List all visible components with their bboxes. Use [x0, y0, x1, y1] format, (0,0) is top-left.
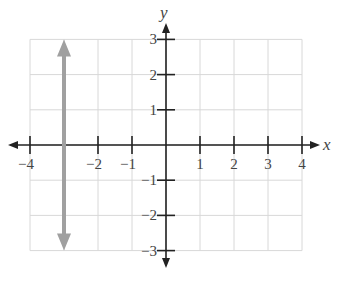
y-tick-label: −1 [141, 172, 157, 188]
x-axis-left-arrow-icon [8, 141, 18, 149]
coordinate-plane: −4−2−11234−3−2−1123xy [0, 0, 345, 281]
y-axis-top-arrow-icon [162, 23, 170, 33]
x-tick-label: −4 [18, 156, 34, 172]
axes [8, 23, 320, 268]
y-tick-label: −3 [141, 243, 157, 259]
x-axis-right-arrow-icon [310, 141, 320, 149]
y-axis-bottom-arrow-icon [162, 258, 170, 268]
y-tick-label: 2 [150, 67, 158, 83]
x-axis-label: x [322, 135, 331, 154]
x-tick-label: 1 [196, 156, 204, 172]
x-tick-label: −2 [86, 156, 102, 172]
x-tick-label: 2 [230, 156, 238, 172]
line-top-arrow-icon [57, 39, 71, 56]
y-tick-label: 3 [150, 31, 158, 47]
x-tick-label: 4 [298, 156, 306, 172]
y-tick-label: −2 [141, 207, 157, 223]
x-tick-label: −1 [120, 156, 136, 172]
y-tick-label: 1 [150, 102, 158, 118]
line-bottom-arrow-icon [57, 234, 71, 251]
x-tick-label: 3 [264, 156, 272, 172]
y-axis-label: y [158, 3, 168, 22]
